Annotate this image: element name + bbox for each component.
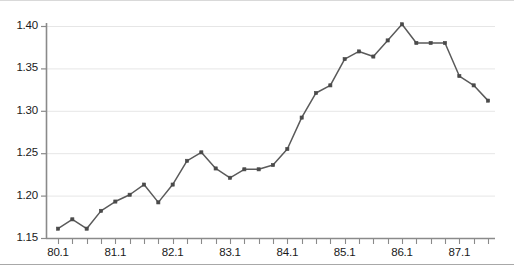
x-axis-tick-label: 87.1 [439, 246, 479, 258]
gridlines [46, 27, 495, 239]
x-axis-tick-label: 84.1 [267, 246, 307, 258]
x-axis-tick-label: 86.1 [382, 246, 422, 258]
y-axis-tick-label: 1.20 [0, 189, 38, 201]
x-axis-tick-label: 82.1 [153, 246, 193, 258]
data-series [58, 24, 488, 228]
x-axis-ticks [59, 239, 489, 244]
y-axis-ticks [41, 27, 46, 239]
y-axis-tick-label: 1.40 [0, 19, 38, 31]
x-axis-tick-label: 80.1 [38, 246, 78, 258]
y-axis-tick-label: 1.30 [0, 104, 38, 116]
x-axis-tick-label: 83.1 [210, 246, 250, 258]
x-axis-tick-label: 85.1 [325, 246, 365, 258]
axes [46, 23, 495, 239]
line-chart [0, 0, 514, 278]
y-axis-tick-label: 1.25 [0, 146, 38, 158]
y-axis-tick-label: 1.35 [0, 61, 38, 73]
y-axis-tick-label: 1.15 [0, 231, 38, 243]
x-axis-tick-label: 81.1 [95, 246, 135, 258]
